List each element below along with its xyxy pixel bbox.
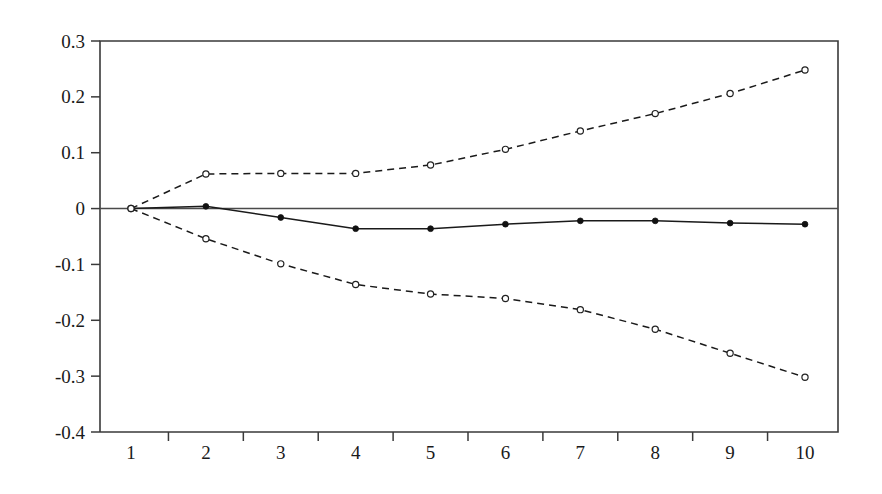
x-axis-ticks: [168, 432, 767, 441]
marker-lower-confidence-band-4: [353, 281, 359, 287]
x-tick-label-7: 8: [650, 442, 660, 463]
marker-point-estimate-6: [503, 221, 509, 227]
marker-upper-confidence-band-8: [652, 111, 658, 117]
marker-lower-confidence-band-3: [278, 261, 284, 267]
x-tick-label-8: 9: [725, 442, 735, 463]
x-tick-label-1: 2: [201, 442, 211, 463]
marker-lower-confidence-band-5: [427, 291, 433, 297]
y-tick-label-4: -0.1: [55, 254, 85, 275]
marker-point-estimate-8: [652, 218, 658, 224]
marker-upper-confidence-band-9: [727, 90, 733, 96]
marker-upper-confidence-band-3: [278, 170, 284, 176]
marker-point-estimate-9: [727, 220, 733, 226]
x-tick-label-9: 10: [796, 442, 815, 463]
marker-upper-confidence-band-5: [427, 162, 433, 168]
marker-point-estimate-5: [428, 226, 434, 232]
marker-upper-confidence-band-4: [353, 170, 359, 176]
marker-lower-confidence-band-6: [502, 295, 508, 301]
marker-lower-confidence-band-2: [203, 236, 209, 242]
y-tick-label-7: -0.4: [55, 422, 86, 443]
x-tick-label-5: 6: [501, 442, 511, 463]
y-tick-label-5: -0.2: [55, 310, 85, 331]
marker-point-estimate-3: [278, 215, 284, 221]
y-tick-label-2: 0.1: [61, 142, 85, 163]
y-tick-label-0: 0.3: [61, 31, 85, 52]
marker-point-estimate-4: [353, 226, 359, 232]
x-tick-label-3: 4: [351, 442, 361, 463]
x-tick-label-4: 5: [426, 442, 436, 463]
marker-upper-confidence-band-2: [203, 171, 209, 177]
marker-lower-confidence-band-7: [577, 307, 583, 313]
marker-upper-confidence-band-7: [577, 128, 583, 134]
y-tick-label-3: 0: [76, 198, 86, 219]
chart-container: 0.30.20.10-0.1-0.2-0.3-0.4 12345678910: [0, 0, 882, 494]
marker-point-estimate-10: [802, 221, 808, 227]
marker-point-estimate-7: [577, 218, 583, 224]
x-axis-tick-labels: 12345678910: [126, 442, 814, 463]
marker-lower-confidence-band-9: [727, 350, 733, 356]
y-tick-label-1: 0.2: [61, 86, 85, 107]
y-axis-tick-labels: 0.30.20.10-0.1-0.2-0.3-0.4: [55, 31, 86, 443]
y-tick-label-6: -0.3: [55, 366, 85, 387]
y-axis-ticks: [91, 41, 100, 432]
chart-axes: [100, 41, 838, 432]
x-tick-label-2: 3: [276, 442, 286, 463]
data-series-group: [131, 70, 805, 377]
axis-frame: [100, 41, 838, 432]
marker-upper-confidence-band-6: [502, 146, 508, 152]
x-tick-label-0: 1: [126, 442, 136, 463]
marker-lower-confidence-band-8: [652, 326, 658, 332]
data-point-markers: [128, 67, 808, 380]
series-line-upper-confidence-band: [131, 70, 805, 209]
series-line-lower-confidence-band: [131, 209, 805, 378]
marker-point-estimate-2: [203, 203, 209, 209]
marker-lower-confidence-band-10: [802, 374, 808, 380]
marker-lower-confidence-band-1: [128, 205, 134, 211]
marker-upper-confidence-band-10: [802, 67, 808, 73]
line-chart-plot: 0.30.20.10-0.1-0.2-0.3-0.4 12345678910: [0, 0, 882, 494]
x-tick-label-6: 7: [576, 442, 586, 463]
series-line-point-estimate: [131, 206, 805, 228]
